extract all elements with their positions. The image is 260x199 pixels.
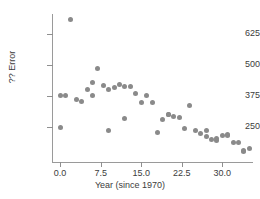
data-point: [193, 128, 198, 133]
data-point: [122, 84, 127, 89]
data-point: [133, 91, 138, 96]
data-point: [204, 134, 209, 139]
data-point: [177, 115, 182, 120]
data-point: [90, 93, 95, 98]
data-point: [63, 93, 68, 98]
data-point: [90, 80, 95, 85]
data-point: [198, 131, 203, 136]
data-point: [122, 116, 127, 121]
data-point: [95, 66, 100, 71]
data-point: [58, 125, 63, 130]
data-point: [220, 133, 225, 138]
data-point: [85, 87, 90, 92]
data-point: [171, 114, 176, 119]
data-point: [112, 85, 117, 90]
data-point: [225, 133, 230, 138]
data-point-layer: [0, 0, 260, 199]
data-point: [150, 100, 155, 105]
data-point: [247, 146, 252, 151]
data-point: [209, 137, 214, 142]
data-point: [79, 99, 84, 104]
data-point: [236, 140, 241, 145]
data-point: [117, 82, 122, 87]
data-point: [166, 112, 171, 117]
data-point: [231, 140, 236, 145]
data-point: [74, 97, 79, 102]
data-point: [68, 17, 73, 22]
data-point: [204, 128, 209, 133]
data-point: [155, 130, 160, 135]
data-point: [160, 117, 165, 122]
data-point: [144, 93, 149, 98]
data-point: [58, 93, 63, 98]
data-point: [182, 126, 187, 131]
scatter-chart-figure: ?? Error 250375500625 0.07.515.022.530.0…: [0, 0, 260, 199]
data-point: [128, 84, 133, 89]
data-point: [187, 103, 192, 108]
x-axis-label: Year (since 1970): [0, 180, 260, 190]
data-point: [106, 128, 111, 133]
data-point: [106, 87, 111, 92]
data-point: [139, 100, 144, 105]
data-point: [101, 83, 106, 88]
